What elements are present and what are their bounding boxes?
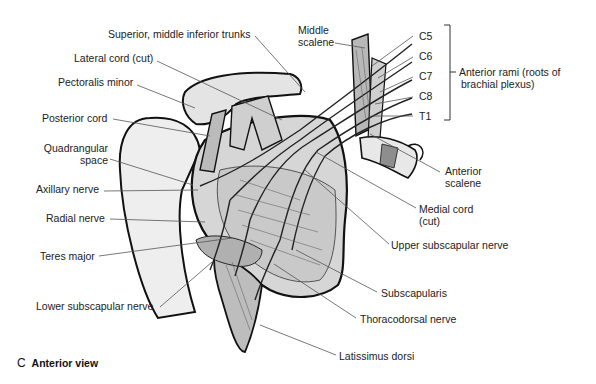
caption-letter: C [17, 356, 26, 370]
label-middle-scalene: Middle scalene [298, 24, 334, 48]
label-quadrangular-space: Quadrangular space [42, 142, 108, 166]
label-pectoralis-minor: Pectoralis minor [58, 76, 133, 88]
label-t1: T1 [419, 110, 431, 122]
label-subscapularis: Subscapularis [381, 287, 447, 299]
label-c6: C6 [419, 50, 432, 62]
label-c5: C5 [419, 30, 432, 42]
figure-caption: C Anterior view [17, 356, 98, 370]
label-latissimus-dorsi: Latissimus dorsi [339, 350, 414, 362]
label-teres-major: Teres major [40, 250, 95, 262]
label-c8: C8 [419, 90, 432, 102]
label-posterior-cord: Posterior cord [42, 112, 107, 124]
label-thoracodorsal-nerve: Thoracodorsal nerve [360, 313, 456, 325]
label-lateral-cord: Lateral cord (cut) [74, 52, 153, 64]
label-c7: C7 [419, 70, 432, 82]
anatomy-figure: Superior, middle inferior trunks Lateral… [0, 0, 596, 384]
label-radial-nerve: Radial nerve [46, 212, 105, 224]
label-upper-subscapular-nerve: Upper subscapular nerve [391, 239, 508, 251]
roots-bracket [444, 25, 456, 120]
label-trunks: Superior, middle inferior trunks [108, 28, 250, 40]
label-lower-subscapular-nerve: Lower subscapular nerve [36, 300, 153, 312]
label-medial-cord: Medial cord (cut) [419, 203, 473, 227]
humerus [120, 118, 200, 318]
caption-title: Anterior view [32, 357, 99, 369]
label-anterior-rami: Anterior rami (roots of brachial plexus) [459, 66, 561, 90]
label-axillary-nerve: Axillary nerve [36, 183, 99, 195]
label-anterior-scalene: Anterior scalene [445, 165, 482, 189]
